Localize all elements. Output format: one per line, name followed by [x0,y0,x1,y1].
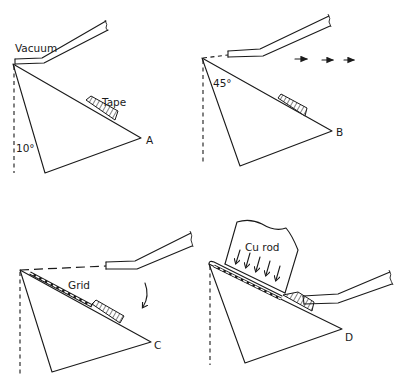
vertex-label-c: C [154,339,161,351]
pressure-arrows [236,250,280,280]
grid-label: Grid [68,279,90,291]
arrow-down-icon [236,250,240,263]
panel-c: Grid C [20,231,193,374]
cu-rod-label: Cu rod [245,241,280,253]
arrow-down-icon [246,253,250,267]
arrow-down-icon [276,266,280,280]
tape-hatch [278,94,307,116]
tape-hatch [92,300,124,323]
diagram-canvas: Vacuum Tape 10° A 45° B [0,0,402,385]
vertex-label-d: D [345,331,353,343]
tape-label: Tape [101,96,126,108]
vacuum-label: Vacuum [15,42,57,54]
vacuum-tweezer [228,14,331,57]
panel-b: 45° B [202,14,354,166]
curved-arrow-icon [143,283,147,307]
tweezer-path [203,55,228,58]
specimen-triangle [13,64,141,173]
vertex-label-b: B [336,126,343,138]
vertex-label-a: A [146,134,154,146]
arrow-down-icon [266,261,270,275]
panel-a: Vacuum Tape 10° A [13,20,154,173]
vacuum-tweezer [106,231,193,269]
specimen-triangle [209,264,342,363]
panel-d: Cu rod D [209,220,393,365]
angle-label: 45° [213,77,232,89]
cu-rod [225,220,298,293]
motion-arrows [295,59,354,60]
specimen-triangle [202,58,332,166]
angle-label: 10° [16,142,35,154]
tweezer-path [20,266,106,270]
arrow-down-icon [256,257,260,271]
vacuum-tweezer [303,270,393,304]
